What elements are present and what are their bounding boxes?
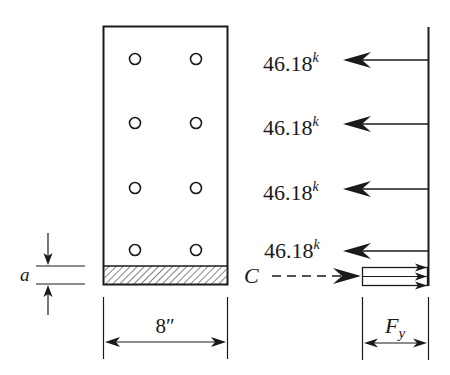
beam-section-diagram: a 8″ 46.18k 46.18k 46.18k 46.18k C <box>0 0 450 375</box>
bolt-icon <box>130 245 141 256</box>
bolt-icon <box>130 118 141 129</box>
bolt-icon <box>191 54 202 65</box>
bolt-icon <box>191 245 202 256</box>
fy-label: Fy <box>384 313 405 341</box>
compression-arrow <box>272 268 361 284</box>
force-label: 46.18k <box>263 114 320 140</box>
compression-label: C <box>244 263 259 288</box>
width-label: 8″ <box>155 314 174 338</box>
stress-block <box>363 264 428 290</box>
force-label: 46.18k <box>263 50 320 76</box>
force-label: 46.18k <box>264 237 321 263</box>
force-label: 46.18k <box>263 179 320 205</box>
bolt-icon <box>191 183 202 194</box>
bolt-icon <box>130 54 141 65</box>
bolt-icon <box>130 183 141 194</box>
bolt-grid <box>130 54 202 256</box>
beam-section <box>104 27 228 285</box>
compression-zone-hatch <box>105 266 227 284</box>
depth-dimension <box>36 233 85 315</box>
section-outline <box>104 27 228 285</box>
force-arrows <box>343 52 428 259</box>
bolt-icon <box>191 118 202 129</box>
force-labels: 46.18k 46.18k 46.18k 46.18k <box>263 50 321 263</box>
depth-label: a <box>20 264 30 285</box>
